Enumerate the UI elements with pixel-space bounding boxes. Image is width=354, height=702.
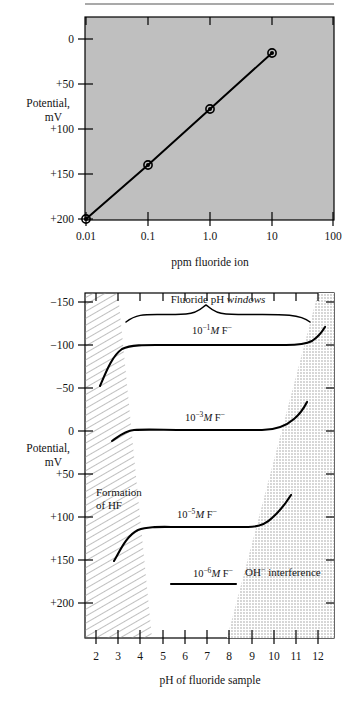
top-chart-xtick-10: 10 <box>266 230 278 242</box>
bottom-chart-ylabel-line1: Potential, <box>26 442 70 455</box>
bottom-chart-ytick-200: +200 <box>50 597 74 609</box>
bottom-chart: −150 −100 −50 0 +50 +100 +150 +200 2 3 4… <box>26 293 334 687</box>
top-chart-xtick-0-1: 0.1 <box>141 230 156 242</box>
bottom-chart-ytick-neg100: −100 <box>50 339 74 351</box>
top-chart-y-ticks-outer <box>78 39 85 219</box>
top-chart-ytick-200: +200 <box>50 213 74 225</box>
top-chart-ytick-150: +150 <box>50 168 74 180</box>
bottom-chart-ytick-0: 0 <box>68 425 74 437</box>
top-chart-ytick-100: +100 <box>50 123 74 135</box>
bottom-chart-xlabel: pH of fluoride sample <box>159 674 260 687</box>
bottom-chart-xtick-5: 5 <box>160 650 166 662</box>
region-hf-label-line2: of HF <box>96 499 122 511</box>
region-hf-label-line1: Formation <box>96 486 142 498</box>
bottom-chart-xtick-8: 8 <box>226 650 232 662</box>
top-chart-xtick-1-0: 1.0 <box>203 230 218 242</box>
bottom-chart-xtick-12: 12 <box>312 650 324 662</box>
top-chart-xlabel: ppm fluoride ion <box>171 256 249 269</box>
top-chart-xtick-0-01: 0.01 <box>76 230 96 242</box>
region-oh-label: OH− interference <box>245 565 321 578</box>
bottom-chart-xtick-3: 3 <box>115 650 121 662</box>
brace-label-plain: Fluoride pH <box>171 293 227 305</box>
curve-1e-5-label: 10−5M F− <box>177 507 218 520</box>
bottom-chart-ylabel-line2: mV <box>45 456 63 468</box>
curve-1e-1-label: 10−1M F− <box>192 323 233 336</box>
top-chart-plot-area <box>85 17 334 220</box>
top-chart-ylabel-line2: mV <box>45 111 63 123</box>
bottom-chart-xtick-2: 2 <box>93 650 99 662</box>
bottom-chart-xtick-9: 9 <box>249 650 255 662</box>
bottom-chart-ytick-100: +100 <box>50 511 74 523</box>
bottom-chart-ytick-neg150: −150 <box>50 296 74 308</box>
bottom-chart-ytick-50: +50 <box>56 468 74 480</box>
curve-1e-3-label: 10−3M F− <box>185 410 226 423</box>
curve-1e-6-label: 10−6M F− <box>193 566 234 579</box>
bottom-chart-xtick-10: 10 <box>268 650 280 662</box>
figure-root: 0 +50 +100 +150 +200 0.01 0.1 1.0 10 100 <box>0 0 354 702</box>
top-chart-ylabel-line1: Potential, <box>26 97 70 110</box>
bottom-chart-xtick-6: 6 <box>182 650 188 662</box>
bottom-chart-xtick-4: 4 <box>137 650 143 662</box>
figure-svg: 0 +50 +100 +150 +200 0.01 0.1 1.0 10 100 <box>0 0 354 702</box>
fluoride-ph-windows-label: Fluoride pH windows <box>171 293 266 305</box>
brace-label-italic: windows <box>227 293 266 305</box>
bottom-chart-xtick-7: 7 <box>204 650 210 662</box>
top-chart: 0 +50 +100 +150 +200 0.01 0.1 1.0 10 100 <box>26 4 342 269</box>
bottom-chart-ytick-neg50: −50 <box>56 382 74 394</box>
bottom-chart-xtick-11: 11 <box>290 650 301 662</box>
top-chart-ytick-0: 0 <box>68 33 74 45</box>
bottom-chart-ytick-150: +150 <box>50 554 74 566</box>
top-chart-ytick-50: +50 <box>56 78 74 90</box>
top-chart-xtick-100: 100 <box>324 230 342 242</box>
